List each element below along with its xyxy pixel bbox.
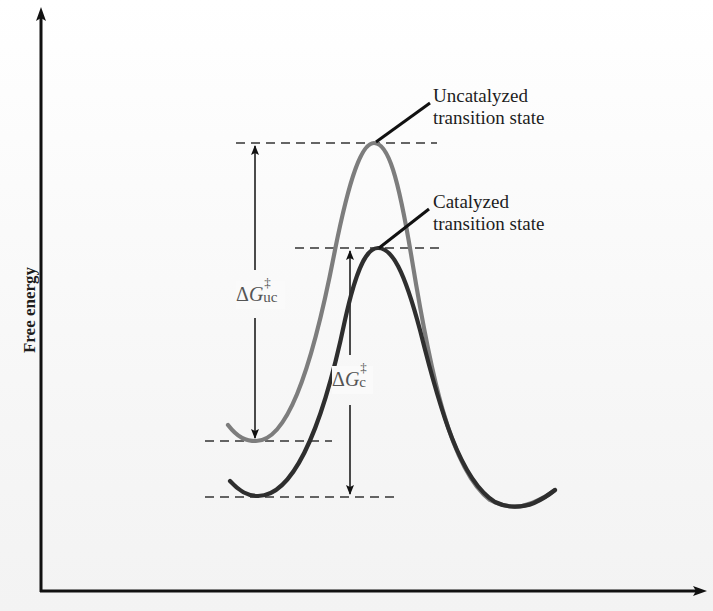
delta-symbol: Δ [332, 368, 345, 390]
catalyzed-ts-label-line2: transition state [433, 213, 544, 235]
uncatalyzed-ts-label-line1: Uncatalyzed [433, 85, 544, 107]
uncatalyzed-ts-label-line2: transition state [433, 107, 544, 129]
g-symbol: G [345, 368, 359, 390]
axes [40, 14, 700, 592]
dg-catalyzed-label: ΔG‡c [332, 366, 373, 394]
catalyzed-ts-label: Catalyzed transition state [433, 191, 544, 235]
uc-subscript: uc [263, 289, 277, 306]
energy-diagram: Free energy Uncatalyzed transition state… [0, 0, 713, 611]
uncatalyzed-ts-leader [376, 103, 430, 142]
c-subscript: c [359, 374, 366, 391]
y-axis-label: Free energy [20, 250, 40, 370]
catalyzed-ts-label-line1: Catalyzed [433, 191, 544, 213]
dg-uncatalyzed-label: ΔG‡uc [236, 281, 285, 309]
g-symbol: G [249, 283, 263, 305]
delta-symbol: Δ [236, 283, 249, 305]
diagram-canvas [0, 0, 713, 611]
dashed-reference-lines [205, 143, 440, 497]
uncatalyzed-ts-label: Uncatalyzed transition state [433, 85, 544, 129]
